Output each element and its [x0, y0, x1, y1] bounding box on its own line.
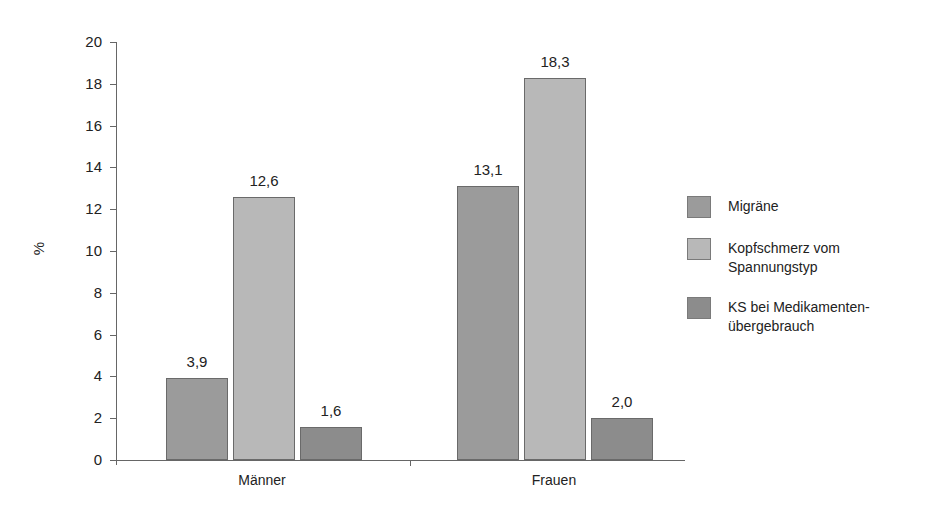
bar-chart: % 02468101214161820 Männer Frauen 3,912,… [0, 0, 933, 515]
y-tick-label: 4 [62, 368, 102, 384]
bar-value-label: 1,6 [296, 403, 366, 419]
legend-item-spannungstyp: Kopfschmerz vom Spannungstyp [687, 238, 908, 277]
bar [457, 186, 519, 460]
y-tick-mark [110, 418, 117, 419]
y-tick-mark [110, 84, 117, 85]
x-axis-line [112, 460, 685, 461]
y-tick-label: 2 [62, 410, 102, 426]
y-tick-mark [110, 209, 117, 210]
bar [591, 418, 653, 460]
y-axis-line [116, 42, 117, 465]
y-tick-label: 18 [62, 76, 102, 92]
bar [300, 427, 362, 460]
y-axis-label: % [30, 242, 47, 255]
bar [233, 197, 295, 460]
bar-value-label: 18,3 [520, 54, 590, 70]
y-tick-label: 14 [62, 159, 102, 175]
y-tick-label: 6 [62, 327, 102, 343]
bar [166, 378, 228, 460]
y-tick-mark [110, 251, 117, 252]
legend-label-spannungstyp: Kopfschmerz vom Spannungstyp [728, 239, 908, 277]
y-tick-label: 8 [62, 285, 102, 301]
legend-label-migraene: Migräne [728, 197, 908, 216]
x-axis-tick [410, 460, 411, 466]
legend-label-medikamentenuebergebrauch: KS bei Medikamenten- übergebrauch [728, 298, 908, 336]
legend-swatch-medikamentenuebergebrauch [687, 297, 711, 319]
y-tick-mark [110, 460, 117, 461]
y-tick-label: 20 [62, 34, 102, 50]
y-tick-mark [110, 335, 117, 336]
y-tick-mark [110, 376, 117, 377]
legend-item-medikamentenuebergebrauch: KS bei Medikamenten- übergebrauch [687, 297, 908, 336]
bar-value-label: 2,0 [587, 394, 657, 410]
bar-value-label: 12,6 [229, 173, 299, 189]
y-tick-mark [110, 42, 117, 43]
bar-value-label: 3,9 [162, 354, 232, 370]
y-tick-mark [110, 293, 117, 294]
category-label-frauen: Frauen [494, 472, 614, 488]
y-tick-label: 10 [62, 243, 102, 259]
category-label-maenner: Männer [202, 472, 322, 488]
bar-value-label: 13,1 [453, 162, 523, 178]
legend-swatch-migraene [687, 196, 711, 218]
y-tick-mark [110, 126, 117, 127]
y-tick-label: 16 [62, 118, 102, 134]
legend-swatch-spannungstyp [687, 238, 711, 260]
legend-item-migraene: Migräne [687, 196, 908, 218]
bar [524, 78, 586, 460]
y-tick-mark [110, 167, 117, 168]
y-tick-label: 12 [62, 201, 102, 217]
y-tick-label: 0 [62, 452, 102, 468]
